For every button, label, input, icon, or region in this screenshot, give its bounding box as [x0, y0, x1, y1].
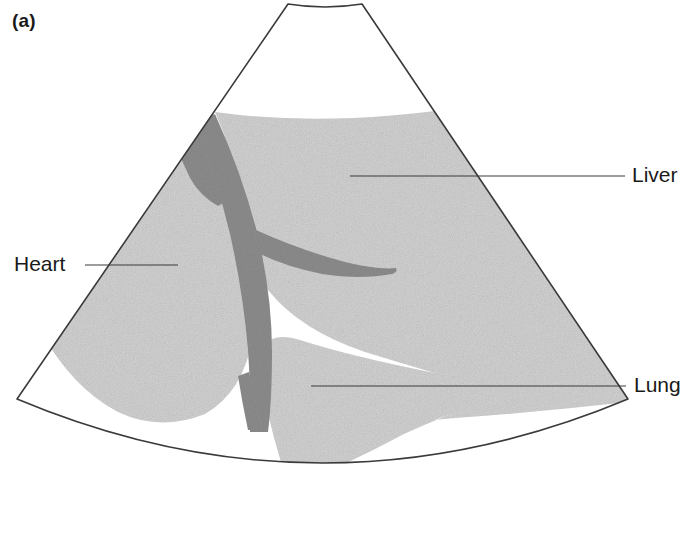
ultrasound-figure: (a)	[0, 0, 690, 534]
label-heart: Heart	[14, 252, 65, 276]
ultrasound-scan-graphic	[0, 0, 690, 534]
label-liver: Liver	[632, 163, 678, 187]
label-lung: Lung	[634, 373, 681, 397]
